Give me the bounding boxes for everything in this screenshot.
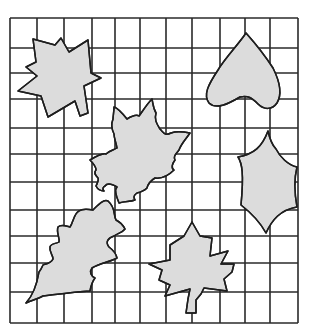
leaf-grid-diagram (0, 0, 309, 333)
holly-leaf-right (238, 131, 297, 233)
leaf-shapes (18, 33, 297, 313)
